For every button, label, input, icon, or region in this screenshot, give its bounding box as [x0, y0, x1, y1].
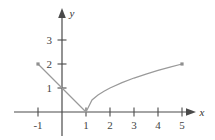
y-tick-label-3: 3: [47, 34, 53, 46]
right-endpoint-marker: [180, 62, 183, 65]
x-tick-label-1: 1: [83, 119, 89, 131]
x-axis-arrow: [186, 108, 196, 116]
x-tick-label-2: 2: [107, 119, 113, 131]
right-branch-curve: [86, 64, 182, 112]
x-tick-label--1: -1: [33, 119, 42, 131]
x-tick-label-3: 3: [131, 119, 137, 131]
x-axis-label: x: [199, 106, 205, 118]
x-tick-label-4: 4: [155, 119, 161, 131]
coordinate-plot: -1 1 2 3 4 5 1 2 3 x y: [0, 0, 215, 140]
y-tick-label-2: 2: [47, 58, 53, 70]
y-axis-label: y: [69, 7, 75, 19]
x-tick-label-5: 5: [179, 119, 185, 131]
y-tick-label-1: 1: [47, 82, 53, 94]
graph-figure: -1 1 2 3 4 5 1 2 3 x y: [0, 0, 215, 140]
left-endpoint-marker: [36, 62, 39, 65]
y-axis-arrow: [58, 8, 66, 18]
